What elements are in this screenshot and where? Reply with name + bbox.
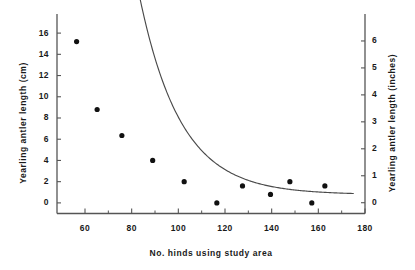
tick-label-y-left: 4 [23,155,49,165]
tick-label-y-left: 10 [23,91,49,101]
tick-label-y-left: 8 [23,112,49,122]
data-point-marker [214,200,219,205]
tick-label-y-left: 16 [23,28,49,38]
tick-label-y-right: 4 [372,89,398,99]
data-point-marker [240,183,245,188]
tick-label-x: 180 [350,223,380,233]
tick-label-y-right: 5 [372,62,398,72]
tick-label-x: 160 [303,223,333,233]
tick-label-y-right: 3 [372,116,398,126]
tick-label-y-right: 0 [372,197,398,207]
tick-label-y-left: 2 [23,176,49,186]
tick-label-x: 100 [163,223,193,233]
tick-label-y-left: 6 [23,134,49,144]
data-point-marker [119,133,124,138]
tick-label-x: 140 [257,223,287,233]
x-axis-title: No. hinds using study area [57,248,365,258]
tick-label-y-left: 12 [23,70,49,80]
tick-label-x: 60 [70,223,100,233]
data-point-marker [150,158,155,163]
data-point-marker [74,39,79,44]
tick-label-x: 80 [117,223,147,233]
tick-label-y-right: 1 [372,170,398,180]
data-point-marker [322,183,327,188]
tick-label-y-left: 0 [23,197,49,207]
fit-curve [66,0,353,193]
tick-label-y-left: 14 [23,49,49,59]
tick-label-y-right: 2 [372,143,398,153]
data-point-marker [268,192,273,197]
bottom-axis-ticks [85,209,365,214]
data-point-marker [287,179,292,184]
tick-label-x: 120 [210,223,240,233]
data-point-marker [309,200,314,205]
chart-figure: Yearling antler length (cm) Yearling ant… [0,0,415,270]
data-point-marker [182,179,187,184]
data-point-series [74,39,327,205]
tick-label-y-right: 6 [372,35,398,45]
data-point-marker [95,107,100,112]
